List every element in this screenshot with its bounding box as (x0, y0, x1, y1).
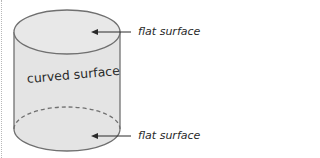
top-flat-surface-label: flat surface (138, 26, 200, 37)
bottom-flat-surface-label: flat surface (138, 130, 200, 141)
